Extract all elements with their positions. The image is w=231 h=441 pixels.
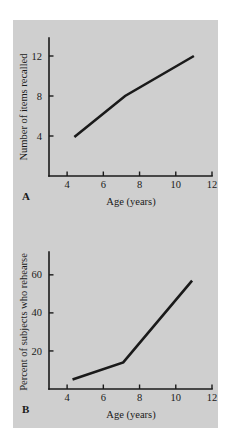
- y-tick-label: 20: [32, 346, 43, 357]
- x-tick-label: 6: [101, 392, 106, 403]
- x-tick-label: 8: [137, 392, 142, 403]
- panel-b-y-axis-label: Percent of subjects who rehearse: [18, 253, 29, 391]
- x-tick-label: 4: [64, 392, 70, 403]
- y-tick-label: 60: [32, 269, 43, 280]
- figure-container: 4812 4681012 Age (years) Number of items…: [0, 0, 231, 441]
- panel-b-x-tick-labels: 4681012: [64, 392, 217, 403]
- panel-b-data-line: [73, 281, 193, 380]
- panel-b-x-axis-label: Age (years): [106, 409, 156, 421]
- panel-b-letter: B: [22, 403, 30, 415]
- panel-b-axes: [49, 252, 212, 389]
- panel-b-y-tick-labels: 204060: [32, 269, 43, 356]
- x-tick-label: 10: [171, 392, 182, 403]
- chart-panel-b: 204060 4681012 Age (years) Percent of su…: [0, 0, 231, 441]
- x-tick-label: 12: [207, 392, 218, 403]
- y-tick-label: 40: [32, 307, 43, 318]
